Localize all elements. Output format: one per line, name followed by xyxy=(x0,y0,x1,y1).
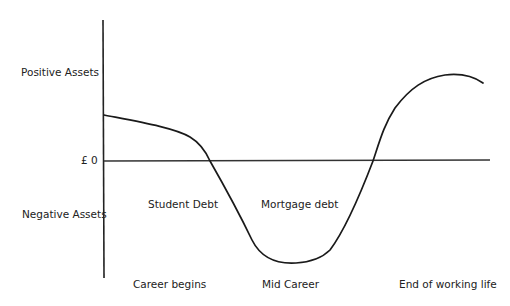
annotation-student-debt: Student Debt xyxy=(148,199,218,210)
x-label-end-of-working-life: End of working life xyxy=(399,279,497,290)
y-label-zero: £ 0 xyxy=(81,155,98,166)
y-label-negative-assets: Negative Assets xyxy=(22,209,107,220)
y-axis xyxy=(103,20,104,278)
x-label-mid-career: Mid Career xyxy=(262,279,319,290)
annotation-mortgage-debt: Mortgage debt xyxy=(261,199,338,210)
assets-over-career-diagram xyxy=(0,0,510,306)
x-label-career-begins: Career begins xyxy=(133,279,206,290)
net-assets-curve xyxy=(104,74,483,263)
zero-line xyxy=(104,160,490,161)
y-label-positive-assets: Positive Assets xyxy=(21,67,99,78)
